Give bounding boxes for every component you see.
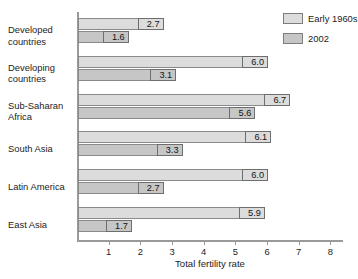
bar-value-label: 5.9 [239,207,265,219]
legend-label: Early 1960s [308,12,358,25]
x-tick-label: 8 [323,246,337,257]
category-label: South Asia [8,143,78,155]
bar [78,207,265,219]
bar-value-label: 2.7 [138,18,164,30]
x-tick-mark [267,240,268,245]
bar-value-label: 6.0 [242,169,268,181]
x-tick-mark [330,240,331,245]
bar-value-label: 2.7 [138,182,164,194]
bar [78,94,290,106]
x-tick-mark [172,240,173,245]
bar [78,131,271,143]
category-label: Latin America [8,181,78,193]
x-tick-label: 6 [260,246,274,257]
x-tick-label: 2 [133,246,147,257]
bar-value-label: 6.1 [245,131,271,143]
x-tick-mark [109,240,110,245]
x-tick-label: 5 [228,246,242,257]
category-label: Developed countries [8,24,78,47]
legend-item: Early 1960s [283,12,358,28]
fertility-rate-bar-chart: Developed countriesDeveloping countriesS… [0,0,358,279]
x-tick-mark [140,240,141,245]
x-axis-line [77,240,343,242]
x-tick-label: 7 [292,246,306,257]
bar-value-label: 3.3 [157,144,183,156]
bar [78,169,268,181]
bar-value-label: 3.1 [150,69,176,81]
x-tick-label: 4 [197,246,211,257]
x-tick-label: 3 [165,246,179,257]
category-label: East Asia [8,219,78,231]
category-label: Sub-Saharan Africa [8,100,78,123]
bar-value-label: 1.7 [106,220,132,232]
x-tick-mark [235,240,236,245]
x-axis-title: Total fertility rate [77,258,343,269]
category-axis-labels: Developed countriesDeveloping countriesS… [0,0,74,240]
legend-swatch-icon [283,13,303,24]
bar-value-label: 6.7 [264,94,290,106]
category-label: Developing countries [8,62,78,85]
legend-swatch-icon [283,33,303,44]
x-tick-mark [299,240,300,245]
bar-value-label: 5.6 [229,107,255,119]
legend-item: 2002 [283,32,358,48]
bar [78,56,268,68]
bar-value-label: 1.6 [103,31,129,43]
x-tick-label: 1 [102,246,116,257]
x-tick-mark [204,240,205,245]
y-axis-line [77,12,79,240]
chart-legend: Early 1960s2002 [283,12,358,52]
legend-label: 2002 [308,32,329,45]
bar-value-label: 6.0 [242,56,268,68]
